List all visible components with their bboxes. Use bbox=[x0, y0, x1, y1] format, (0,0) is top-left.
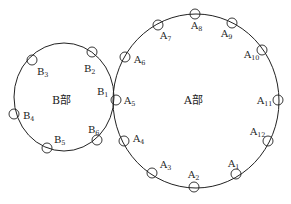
label-a2: A2 bbox=[187, 169, 199, 182]
label-b1: B1 bbox=[97, 86, 109, 99]
label-b2: B2 bbox=[84, 63, 96, 76]
hole-a2 bbox=[189, 182, 199, 192]
part-a-name: A部 bbox=[183, 93, 203, 107]
label-a8: A8 bbox=[190, 20, 202, 33]
label-a4: A4 bbox=[132, 133, 144, 146]
label-a7: A7 bbox=[159, 30, 171, 43]
label-a1: A1 bbox=[227, 158, 239, 171]
label-a9: A9 bbox=[220, 28, 232, 41]
label-a11: A11 bbox=[256, 95, 273, 108]
hole-a11 bbox=[273, 95, 283, 105]
label-b4: B4 bbox=[23, 110, 35, 123]
label-a6: A6 bbox=[133, 54, 145, 67]
label-b6: B6 bbox=[88, 124, 100, 137]
hole-a7 bbox=[153, 20, 163, 30]
label-a3: A3 bbox=[159, 159, 171, 172]
hole-b3 bbox=[27, 55, 37, 65]
label-b3: B3 bbox=[37, 66, 49, 79]
label-b5: B5 bbox=[54, 134, 66, 147]
label-a12: A12 bbox=[249, 126, 266, 139]
diagram-canvas: B部 A部 B2 B3 B4 B5 B6 B1 A5 A6 A7 A8 A9 A… bbox=[0, 0, 291, 204]
label-a5: A5 bbox=[123, 95, 135, 108]
hole-a3 bbox=[147, 168, 157, 178]
part-b-name: B部 bbox=[52, 93, 71, 107]
hole-a6 bbox=[120, 52, 130, 62]
hole-b4 bbox=[9, 109, 19, 119]
hole-a5-b1 bbox=[111, 95, 121, 105]
